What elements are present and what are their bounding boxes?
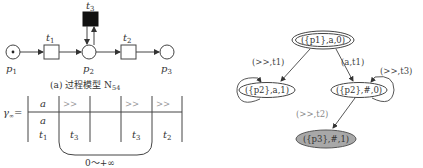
edge-label-n0-n2: (a,t1): [341, 57, 364, 67]
figure-canvas: p1 t1 p2 t3 t2 p3 (a) 过程模型 N54 γ∞=: [0, 0, 423, 168]
bottom-t-cell-4: t2: [163, 129, 172, 142]
alignment-table: γ∞= a >> >> >> a t1 t3 t3 t2 0～+∞: [3, 96, 182, 168]
gamma-label: γ∞=: [3, 107, 22, 119]
edge-n2-n3: [333, 98, 355, 128]
place-p3-label: p3: [161, 63, 172, 76]
state-graph: ({p1},a,0) (>>,t1) (a,t1) (>>,t3) ({p2},…: [237, 31, 412, 148]
state-node-n0-label: ({p1},a,0): [301, 35, 345, 45]
edge-n0-n1: [281, 49, 310, 81]
transition-t3-label: t3: [86, 0, 95, 13]
place-p1-label: p1: [6, 63, 17, 76]
bottom-a-cell-0: a: [40, 115, 46, 126]
top-cell-0: a: [40, 98, 46, 109]
repeat-brace: [59, 142, 152, 155]
edge-label-n2-n3: (>>,t2): [296, 109, 328, 119]
top-cell-1: >>: [63, 99, 77, 109]
top-cell-3: >>: [125, 99, 139, 109]
petri-net-caption: (a) 过程模型 N54: [50, 79, 120, 92]
transition-t1-label: t1: [46, 32, 55, 45]
top-cell-4: >>: [156, 99, 170, 109]
place-p2-label: p2: [83, 63, 94, 76]
petri-net: p1 t1 p2 t3 t2 p3 (a) 过程模型 N54: [6, 0, 174, 92]
edge-label-n0-n1: (>>,t1): [252, 57, 284, 67]
transition-t1: [44, 45, 59, 59]
bottom-t-cell-3: t3: [132, 129, 141, 142]
repeat-label: 0～+∞: [85, 158, 115, 168]
state-node-n3-label: ({p3},#,1): [303, 134, 349, 144]
edge-label-n2-self: (>>,t3): [380, 66, 412, 76]
transition-t3: [83, 12, 98, 26]
state-node-n2-label: ({p2},#,0): [336, 85, 382, 95]
state-node-n1-label: ({p2},a,1): [245, 85, 289, 95]
place-p3: [160, 45, 174, 59]
place-p2: [82, 45, 96, 59]
bottom-t-cell-1: t3: [70, 129, 79, 142]
token-icon: [12, 51, 15, 54]
transition-t2-label: t2: [123, 32, 132, 45]
bottom-t-cell-0: t1: [39, 129, 48, 142]
transition-t2: [121, 45, 136, 59]
